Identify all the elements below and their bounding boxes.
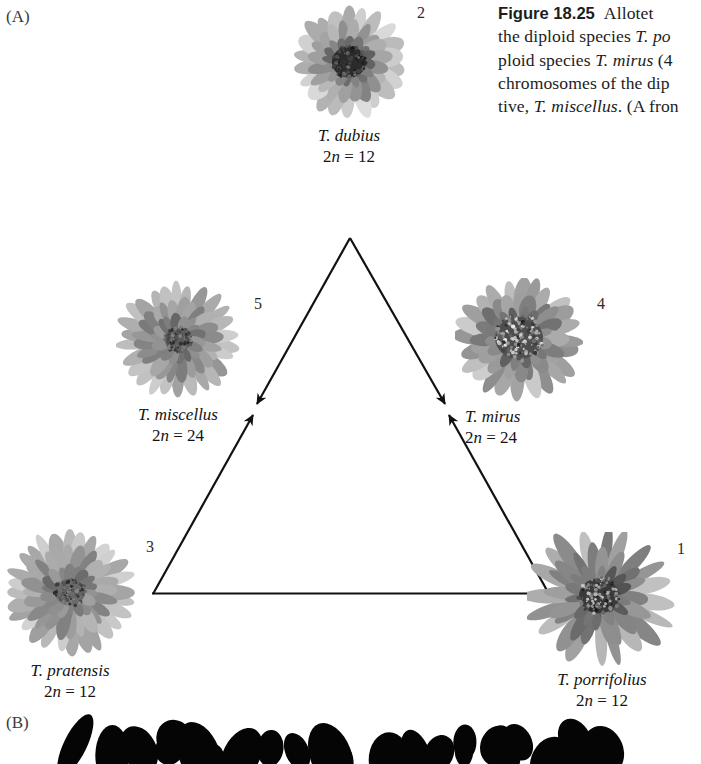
- flower-number-t-mirus: 4: [597, 295, 605, 313]
- flower-number-t-dubius: 2: [417, 4, 425, 22]
- node-t-porrifolius: 1 T. porrifolius 2n = 12: [527, 532, 677, 711]
- node-t-mirus: 4 T. mirus 2n = 24: [455, 278, 583, 448]
- node-t-pratensis: 3 T. pratensis 2n = 12: [2, 528, 138, 702]
- figure-18-25: (A) Figure 18.25Allotet the diploid spec…: [0, 0, 701, 764]
- flower-label-t-pratensis: T. pratensis 2n = 12: [2, 660, 138, 702]
- species-name-t-miscellus: T. miscellus: [116, 404, 240, 425]
- flower-label-t-miscellus: T. miscellus 2n = 24: [116, 404, 240, 446]
- species-name-t-mirus: T. mirus: [465, 406, 583, 427]
- node-t-dubius: 2 T. dubius 2n = 12: [287, 0, 411, 167]
- species-name-t-pratensis: T. pratensis: [2, 660, 138, 681]
- flower-number-t-porrifolius: 1: [677, 540, 685, 558]
- node-t-miscellus: 5 T. miscellus 2n = 24: [116, 278, 240, 446]
- flower-photo-t-mirus: 4: [455, 278, 583, 404]
- species-name-t-dubius: T. dubius: [287, 125, 411, 146]
- panel-b-chromosome-spread: [0, 700, 701, 764]
- flower-photo-t-miscellus: 5: [116, 278, 240, 402]
- flower-number-t-pratensis: 3: [146, 538, 154, 556]
- flower-photo-t-dubius: 2: [287, 0, 411, 124]
- species-name-t-porrifolius: T. porrifolius: [527, 669, 677, 690]
- arrow-dubius-to-mirus: [350, 238, 445, 404]
- flower-photo-t-pratensis: 3: [2, 528, 138, 658]
- ploidy-t-dubius: 2n = 12: [287, 146, 411, 167]
- ploidy-t-pratensis: 2n = 12: [2, 681, 138, 702]
- flower-photo-t-porrifolius: 1: [527, 532, 677, 668]
- arrow-dubius-to-miscellus: [257, 238, 350, 404]
- ploidy-t-mirus: 2n = 24: [465, 427, 583, 448]
- ploidy-t-miscellus: 2n = 24: [116, 425, 240, 446]
- panel-b-label: (B): [6, 713, 29, 733]
- flower-number-t-miscellus: 5: [254, 295, 262, 313]
- flower-label-t-dubius: T. dubius 2n = 12: [287, 125, 411, 167]
- flower-label-t-mirus: T. mirus 2n = 24: [455, 406, 583, 448]
